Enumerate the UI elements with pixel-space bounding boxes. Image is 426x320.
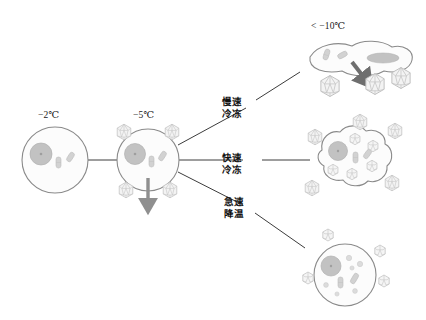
path-label-slow-freezing-line1: 慢速 bbox=[222, 96, 242, 108]
nucleolus bbox=[40, 153, 43, 156]
path-label-rapid-cooling-line2: 降温 bbox=[224, 208, 244, 220]
cell-membrane bbox=[314, 244, 376, 306]
path-label-slow-freezing: 慢速 冷冻 bbox=[222, 96, 242, 119]
nucleolus bbox=[337, 150, 339, 152]
connector-rapid-right bbox=[255, 213, 305, 248]
path-label-fast-freezing-line1: 快速 bbox=[222, 152, 242, 164]
path-label-fast-freezing: 快速 冷冻 bbox=[222, 152, 242, 175]
path-label-rapid-cooling-line1: 急速 bbox=[224, 196, 244, 208]
temperature-label-deep: < −10℃ bbox=[311, 20, 345, 31]
figure-canvas: −2℃ −5℃ < −10℃ 慢速 冷冻 快速 冷冻 急速 降温 bbox=[0, 0, 426, 320]
nucleus bbox=[367, 53, 399, 63]
cell-start bbox=[22, 127, 88, 193]
cell-slow-dehydrated bbox=[310, 41, 412, 96]
diagram-svg bbox=[0, 0, 426, 320]
path-label-fast-freezing-line2: 冷冻 bbox=[222, 164, 242, 176]
nucleolus bbox=[134, 153, 137, 156]
connector-slow-right bbox=[256, 72, 300, 100]
cell-fast-intracellular-ice bbox=[305, 114, 402, 196]
path-label-slow-freezing-line2: 冷冻 bbox=[222, 108, 242, 120]
temperature-label-nucleation: −5℃ bbox=[133, 109, 154, 120]
nucleolus bbox=[330, 265, 332, 267]
cell-nucleation bbox=[117, 124, 179, 205]
cell-vitrified bbox=[303, 229, 389, 306]
temperature-label-start: −2℃ bbox=[38, 109, 59, 120]
path-label-rapid-cooling: 急速 降温 bbox=[224, 196, 244, 219]
